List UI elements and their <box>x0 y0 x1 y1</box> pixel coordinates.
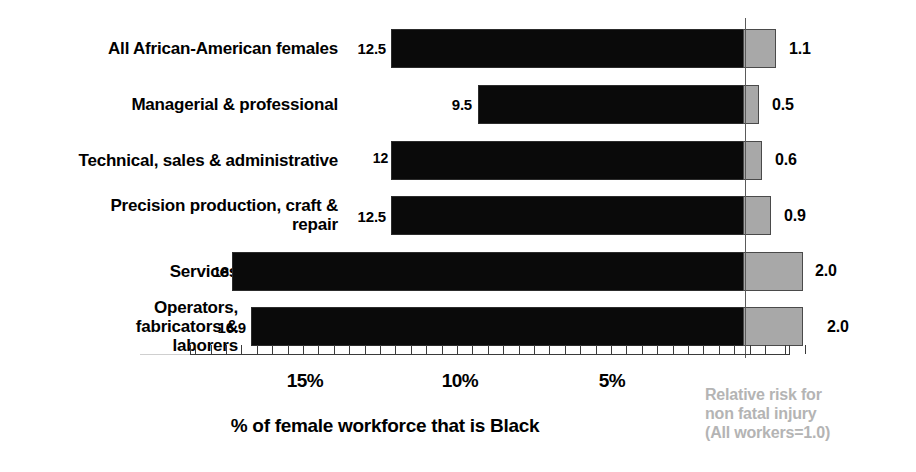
relative-risk-value-5: 2.0 <box>827 318 887 336</box>
percent-value-5: 16.9 <box>180 319 246 336</box>
x-axis-tick <box>688 345 689 354</box>
x-axis-tick <box>226 345 227 354</box>
x-axis-title: % of female workforce that is Black <box>160 415 610 437</box>
x-axis-tick <box>765 345 766 354</box>
percent-value-1: 9.5 <box>406 96 472 113</box>
x-axis-tick-end <box>789 345 790 354</box>
x-axis-tick <box>580 345 581 354</box>
x-axis-tick <box>750 345 751 354</box>
x-axis-tick <box>673 345 674 354</box>
bar-black-2 <box>391 141 746 180</box>
x-axis-tick <box>457 345 458 354</box>
relative-risk-value-3: 0.9 <box>784 207 844 225</box>
percent-value-3: 12.5 <box>320 208 386 225</box>
x-axis-tick <box>565 345 566 354</box>
x-axis-tick <box>211 345 212 354</box>
category-label-1: Managerial & professional <box>20 95 338 114</box>
x-axis-tick <box>395 345 396 354</box>
x-axis-tick <box>426 345 427 354</box>
x-axis-tick <box>734 345 735 354</box>
x-axis-tick <box>303 345 304 354</box>
bar-gray-3 <box>743 196 771 235</box>
percent-value-2: 12 <box>322 150 388 166</box>
bar-gray-4 <box>743 252 803 291</box>
x-axis-tick <box>318 345 319 354</box>
x-axis-tick <box>785 345 786 354</box>
x-axis-tick <box>380 345 381 354</box>
bar-black-0 <box>391 29 746 68</box>
relative-risk-value-1: 0.5 <box>772 96 832 114</box>
x-axis-tick <box>257 345 258 354</box>
x-axis-tick <box>472 345 473 354</box>
x-axis-tick <box>626 345 627 354</box>
legend-note: Relative risk for non fatal injury (All … <box>705 385 916 442</box>
x-axis-tick <box>349 345 350 354</box>
relative-risk-value-2: 0.6 <box>775 151 835 169</box>
x-axis-tick <box>442 345 443 354</box>
relative-risk-value-4: 2.0 <box>815 262 875 280</box>
category-label-2: Technical, sales & administrative <box>20 151 338 170</box>
x-axis-tick <box>503 345 504 354</box>
bar-black-1 <box>478 85 746 124</box>
x-axis-tick-label-5: 5% <box>572 370 652 392</box>
x-axis-tick <box>611 345 612 354</box>
x-axis-tick <box>241 345 242 354</box>
bar-black-3 <box>391 196 746 235</box>
x-axis-tick <box>719 345 720 354</box>
x-axis-tick <box>642 345 643 354</box>
x-axis-tick <box>334 345 335 354</box>
x-axis-tick <box>534 345 535 354</box>
x-axis-tick <box>411 345 412 354</box>
x-axis-tick-label-10: 10% <box>420 370 500 392</box>
bar-black-5 <box>251 307 746 346</box>
category-label-0: All African-American females <box>20 39 338 58</box>
x-axis-tick <box>596 345 597 354</box>
x-axis-tick <box>365 345 366 354</box>
x-axis-tick <box>703 345 704 354</box>
reference-line <box>745 18 746 358</box>
x-axis-tick <box>657 345 658 354</box>
x-axis-tick-label-15: 15% <box>265 370 345 392</box>
x-axis-tick <box>195 345 196 354</box>
bar-black-4 <box>232 252 746 291</box>
x-axis-tick <box>288 345 289 354</box>
x-axis-tick <box>272 345 273 354</box>
percent-value-0: 12.5 <box>320 40 386 57</box>
x-axis-tick <box>519 345 520 354</box>
x-axis-tick-start <box>190 345 191 354</box>
x-axis-line-left-faint <box>140 354 190 355</box>
bar-gray-0 <box>743 29 776 68</box>
x-axis-tick <box>549 345 550 354</box>
bar-gray-5 <box>743 307 803 346</box>
percent-value-4: 18 <box>163 263 229 280</box>
x-axis-line <box>190 354 790 355</box>
category-label-3: Precision production, craft & repair <box>20 196 338 234</box>
x-axis-tick <box>488 345 489 354</box>
x-axis-tick <box>805 345 806 354</box>
chart-canvas: All African-American females Managerial … <box>0 0 916 472</box>
relative-risk-value-0: 1.1 <box>789 40 849 58</box>
